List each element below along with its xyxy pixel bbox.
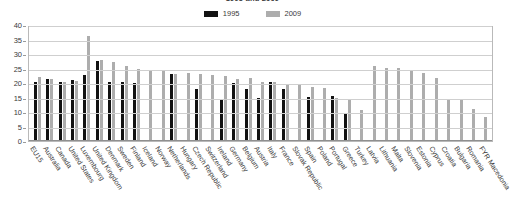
gridline	[29, 26, 492, 27]
bar-2009	[410, 71, 413, 141]
y-axis-tick	[23, 128, 26, 129]
gridline	[29, 70, 492, 71]
x-axis-category: Netherlands	[167, 143, 179, 223]
legend-label-2009: 2009	[285, 10, 302, 18]
y-axis-tick-label: 25	[14, 66, 22, 74]
bar-2009	[397, 68, 400, 141]
x-axis-category: United Kingdom	[92, 143, 104, 223]
bar-2009	[323, 88, 326, 141]
bar-2009	[112, 62, 115, 141]
x-axis-category: Switzerland	[204, 143, 216, 223]
bar-2009	[348, 100, 351, 141]
bar-1995	[331, 96, 334, 141]
x-axis-category: Cyprus	[429, 143, 441, 223]
bar-2009	[50, 79, 53, 141]
bar-1995	[195, 89, 198, 141]
x-axis-category: Finland	[130, 143, 142, 223]
bar-1995	[282, 89, 285, 141]
y-axis-tick	[23, 142, 26, 143]
bar-1995	[71, 80, 74, 141]
y-axis-tick	[23, 113, 26, 114]
legend-swatch-icon	[204, 11, 218, 17]
x-axis-tick-label: Italy	[265, 145, 279, 160]
bar-2009	[87, 36, 90, 141]
x-axis-category: Estonia	[416, 143, 428, 223]
bar-2009	[360, 110, 363, 141]
x-axis-category: United States	[67, 143, 79, 223]
bar-2009	[236, 79, 239, 141]
plot-area	[28, 26, 493, 142]
x-axis-category: Ireland	[217, 143, 229, 223]
x-axis-category: Luxembourg	[80, 143, 92, 223]
bar-2009	[224, 76, 227, 141]
bar-1995	[96, 61, 99, 141]
gridline	[29, 55, 492, 56]
y-axis-tick	[23, 41, 26, 42]
bar-1995	[46, 79, 49, 141]
x-axis-category: Italy	[267, 143, 279, 223]
x-axis-category: Slovak Republic	[292, 143, 304, 223]
gridline	[29, 84, 492, 85]
y-axis-tick	[23, 84, 26, 85]
bar-2009	[447, 99, 450, 141]
x-axis-category: Latvia	[366, 143, 378, 223]
x-axis-labels: EU15AustraliaCanadaUnited StatesLuxembou…	[28, 143, 493, 223]
bar-2009	[311, 87, 314, 141]
bar-1995	[121, 82, 124, 141]
gridline	[29, 99, 492, 100]
bar-1995	[232, 83, 235, 141]
y-axis-tick-label: 0	[18, 138, 22, 146]
y-axis-tick	[23, 55, 26, 56]
bar-2009	[75, 81, 78, 141]
x-axis-category: Lithuania	[379, 143, 391, 223]
x-axis-category: Malta	[391, 143, 403, 223]
bar-1995	[307, 97, 310, 141]
x-axis-category: Czech Republic	[192, 143, 204, 223]
x-axis-category: Turkey	[354, 143, 366, 223]
x-axis-category: Austria	[254, 143, 266, 223]
x-axis-category: Greece	[341, 143, 353, 223]
bar-2009	[63, 82, 66, 141]
bar-2009	[261, 82, 264, 141]
bar-2009	[335, 98, 338, 141]
x-axis-category: Belgium	[242, 143, 254, 223]
y-axis-tick-label: 10	[14, 109, 22, 117]
legend-item-1995: 1995	[204, 10, 240, 18]
bar-2009	[385, 68, 388, 141]
bar-2009	[38, 77, 41, 141]
bar-2009	[125, 66, 128, 141]
bar-1995	[269, 82, 272, 141]
legend-label-1995: 1995	[223, 10, 240, 18]
x-axis-category: EU15	[30, 143, 42, 223]
x-axis-category: Australia	[42, 143, 54, 223]
bar-2009	[273, 82, 276, 141]
y-axis-tick	[23, 99, 26, 100]
x-axis-category: Sweden	[117, 143, 129, 223]
y-axis-tick	[23, 70, 26, 71]
x-axis-category: Slovenia	[404, 143, 416, 223]
bar-2009	[460, 99, 463, 141]
bar-2009	[435, 78, 438, 141]
gridline	[29, 113, 492, 114]
x-axis-category: Canada	[55, 143, 67, 223]
x-axis-category: Croatia	[441, 143, 453, 223]
gridline	[29, 128, 492, 129]
y-axis-tick	[23, 26, 26, 27]
x-axis-category: Germany	[229, 143, 241, 223]
bar-2009	[373, 66, 376, 141]
bar-2009	[100, 60, 103, 141]
x-axis-category: Iceland	[142, 143, 154, 223]
x-axis-category: Bulgaria	[453, 143, 465, 223]
chart-legend: 1995 2009	[0, 10, 505, 18]
bar-2009	[149, 70, 152, 141]
x-axis-category: Hungary	[179, 143, 191, 223]
bar-1995	[245, 89, 248, 141]
y-axis-tick-label: 15	[14, 95, 22, 103]
bar-1995	[59, 82, 62, 141]
x-axis-category: Romania	[466, 143, 478, 223]
y-axis-tick-label: 5	[18, 124, 22, 132]
y-axis-tick-label: 40	[14, 22, 22, 30]
x-axis-baseline	[29, 140, 492, 141]
x-axis-category: FYR Macedonia	[478, 143, 490, 223]
